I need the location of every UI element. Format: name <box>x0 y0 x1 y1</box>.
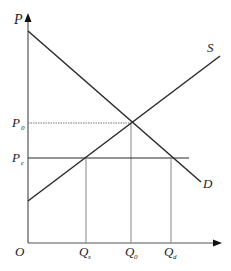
supply-demand-diagram: P O S D P 0 P c Q s Q 0 Q d <box>0 0 231 271</box>
pc-label: P c <box>11 150 25 167</box>
svg-text:c: c <box>21 159 25 167</box>
demand-label: D <box>202 176 213 191</box>
x-axis-arrow-icon <box>213 240 222 247</box>
demand-curve <box>28 31 201 182</box>
qd-label: Q d <box>164 244 177 261</box>
svg-text:d: d <box>173 253 177 261</box>
y-axis-arrow-icon <box>25 13 32 22</box>
p0-label: P 0 <box>11 115 25 132</box>
origin-label: O <box>15 244 25 259</box>
supply-curve <box>28 56 220 201</box>
qs-label: Q s <box>79 244 91 261</box>
svg-text:P: P <box>11 115 20 130</box>
q0-label: Q 0 <box>125 244 138 261</box>
svg-text:s: s <box>88 253 91 261</box>
svg-text:0: 0 <box>21 124 25 132</box>
svg-text:0: 0 <box>134 253 138 261</box>
y-axis-label: P <box>13 12 23 27</box>
svg-text:P: P <box>11 150 20 165</box>
supply-label: S <box>207 40 214 55</box>
